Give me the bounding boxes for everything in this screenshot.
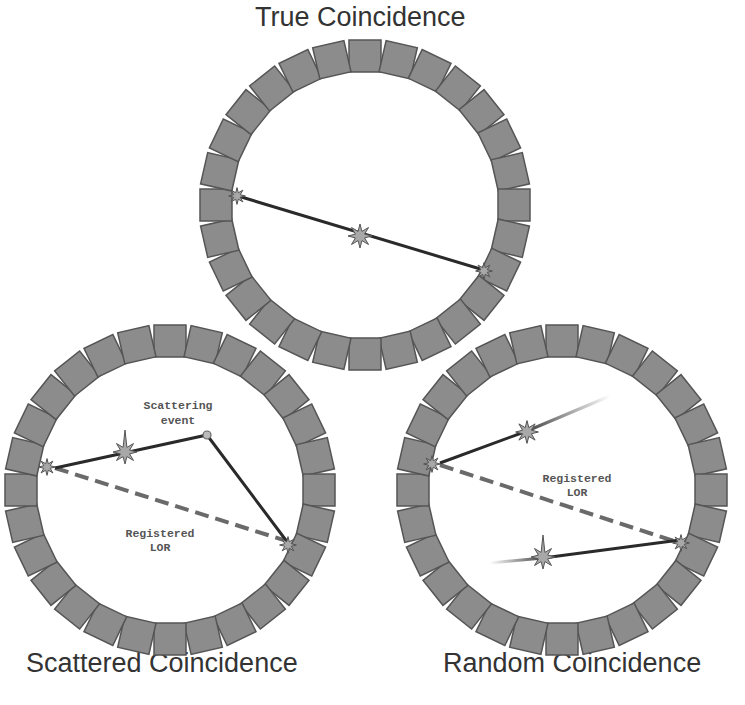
detection-star-icon xyxy=(39,459,56,476)
detector-block xyxy=(303,474,335,506)
detector-block xyxy=(379,331,417,369)
detector-block xyxy=(5,474,37,506)
random-coincidence-events: Registered LOR xyxy=(424,396,690,569)
detector-block xyxy=(576,616,614,654)
detector-block xyxy=(546,623,578,655)
scattered-coincidence-events: Scattering event Registered LOR xyxy=(39,399,297,554)
detector-block xyxy=(546,325,578,357)
detection-star-icon xyxy=(673,535,690,552)
detector-block xyxy=(498,189,530,221)
detector-block xyxy=(349,338,381,370)
registered-lor-label: Registered xyxy=(542,472,611,485)
detector-block xyxy=(184,616,222,654)
scattering-event-label: Scattering xyxy=(143,399,212,412)
detection-star-icon xyxy=(476,263,493,280)
detection-star-icon xyxy=(229,188,246,205)
detector-block xyxy=(695,474,727,506)
detector-block xyxy=(201,219,239,257)
annihilation-star-icon xyxy=(113,430,137,464)
detector-block xyxy=(688,438,726,476)
annihilation-star-icon xyxy=(531,535,555,569)
annihilation-star-icon xyxy=(516,421,539,444)
registered-lor-label: LOR xyxy=(567,486,588,499)
detector-block xyxy=(349,40,381,72)
detector-block xyxy=(510,326,548,364)
true-coincidence-ring xyxy=(200,40,530,370)
detector-block xyxy=(491,153,529,191)
detector-block xyxy=(397,474,429,506)
registered-lor-label: LOR xyxy=(150,541,171,554)
scattering-event-label: event xyxy=(161,414,196,427)
detector-block xyxy=(154,325,186,357)
detector-block xyxy=(296,438,334,476)
detector-block xyxy=(200,189,232,221)
detector-block xyxy=(118,326,156,364)
random-coincidence-ring xyxy=(397,325,727,655)
detection-star-icon xyxy=(424,456,441,473)
detector-block xyxy=(6,504,44,542)
annihilation-star-icon xyxy=(348,224,372,248)
detector-block xyxy=(398,504,436,542)
scattering-event-icon xyxy=(203,431,211,439)
registered-lor-label: Registered xyxy=(125,527,194,540)
detector-block xyxy=(313,41,351,79)
scattered-coincidence-ring xyxy=(5,325,335,655)
detector-block xyxy=(154,623,186,655)
pet-coincidence-diagram: Scattering event Registered LOR Register… xyxy=(0,0,745,705)
detection-star-icon xyxy=(280,537,297,554)
true-coincidence-events xyxy=(229,188,493,280)
